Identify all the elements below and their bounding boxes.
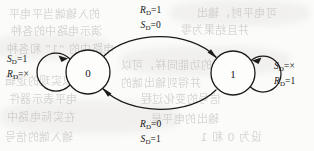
signal-value: 0: [157, 119, 162, 129]
transition-arc-0-to-1: [104, 37, 216, 57]
transition-arc-1-to-0: [103, 89, 216, 109]
signal-value: 0: [156, 20, 161, 30]
signal-value: 1: [157, 5, 162, 15]
transition-condition-row: RD=1: [140, 4, 161, 19]
figure-canvas: 的入输端当平电平 可电平时，输出 演示电路中的各种 并且结果为零 电路中的 “1…: [0, 0, 314, 151]
signal-value: 1: [156, 134, 161, 144]
transition-label-0-to-1: RD=1 SD=0: [140, 4, 161, 33]
transition-condition-row: RD=×: [7, 68, 29, 83]
self-loop-label-state-0: SD=1 RD=×: [7, 53, 29, 82]
transition-condition-row: SD=×: [274, 60, 295, 75]
transition-condition-row: RD=0: [140, 118, 161, 133]
transition-condition-row: RD=1: [274, 75, 295, 90]
signal-value: ×: [289, 61, 294, 71]
self-loop-label-state-1: SD=× RD=1: [274, 60, 295, 89]
transition-condition-row: SD=1: [140, 133, 161, 148]
transition-label-1-to-0: RD=0 SD=1: [140, 118, 161, 147]
transition-condition-row: SD=1: [7, 53, 29, 68]
state-label-1: 1: [230, 68, 236, 80]
signal-value: 1: [22, 54, 27, 64]
state-label-0: 0: [85, 67, 91, 79]
signal-value: 1: [291, 76, 296, 86]
signal-value: ×: [24, 69, 29, 79]
transition-condition-row: SD=0: [140, 19, 161, 34]
